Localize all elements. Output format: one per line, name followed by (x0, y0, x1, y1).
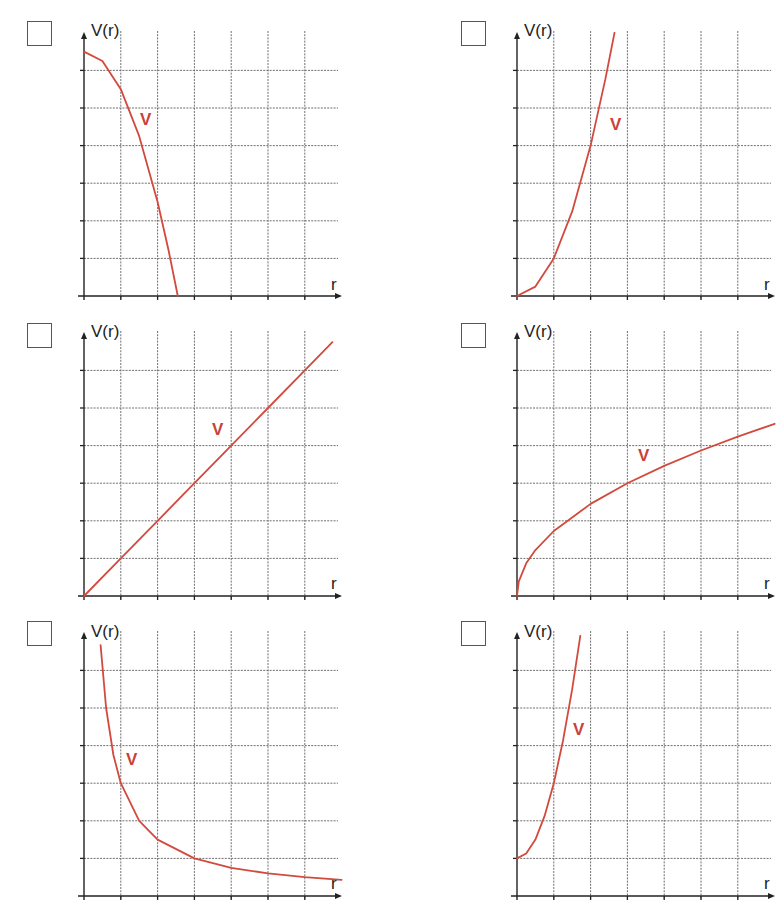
y-axis-label: V(r) (524, 623, 552, 640)
graph-bottom-left (0, 600, 360, 904)
x-axis-label: r (331, 276, 337, 293)
y-axis-label: V(r) (91, 623, 119, 640)
graph-top-left (0, 0, 360, 300)
graph-panel-top-right: V(r) r V (433, 0, 783, 300)
graph-panel-middle-right: V(r) r V (433, 300, 783, 600)
curve-label: V (140, 111, 151, 128)
curve-v (517, 636, 580, 859)
curve-label: V (638, 447, 649, 464)
graph-panel-middle-left: V(r) r V (0, 300, 360, 600)
graph-bottom-right (433, 600, 783, 904)
x-axis-label: r (764, 575, 770, 592)
curve-label: V (610, 116, 621, 133)
y-axis-label: V(r) (524, 22, 552, 39)
y-axis-label: V(r) (524, 323, 552, 340)
x-axis-label: r (331, 575, 337, 592)
graph-middle-left (0, 300, 360, 600)
graph-panel-bottom-left: V(r) r V (0, 600, 360, 900)
graph-panel-bottom-right: V(r) r V (433, 600, 783, 900)
y-axis-label: V(r) (91, 22, 119, 39)
x-axis-label: r (331, 875, 337, 892)
y-axis-label: V(r) (91, 323, 119, 340)
curve-label: V (573, 721, 584, 738)
curve-v (84, 52, 178, 296)
graph-panel-top-left: V(r) r V (0, 0, 360, 300)
graph-middle-right (433, 300, 783, 600)
curve-label: V (126, 751, 137, 768)
curve-v (517, 33, 615, 296)
x-axis-label: r (764, 276, 770, 293)
x-axis-label: r (764, 875, 770, 892)
graph-top-right (433, 0, 783, 300)
curve-label: V (212, 421, 223, 438)
